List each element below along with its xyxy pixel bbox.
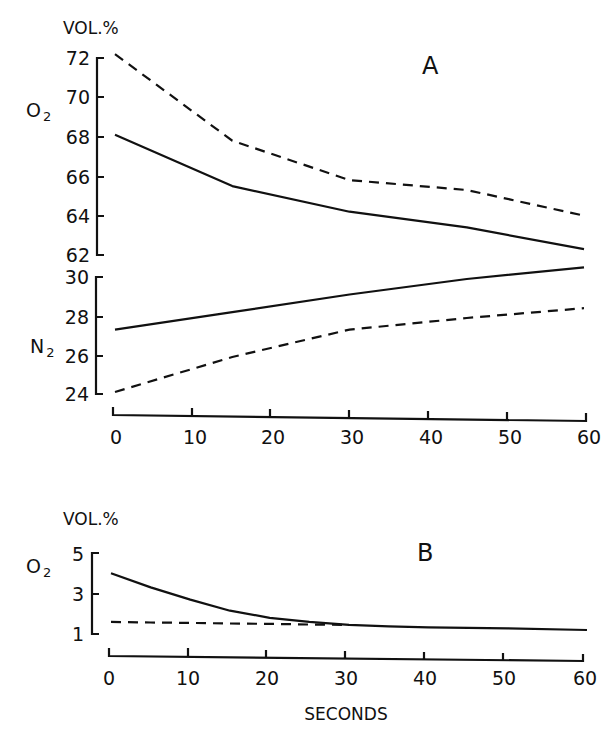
x-tick-label: 40 <box>413 667 437 689</box>
panel-a-n2-dashed-line <box>115 308 584 392</box>
panel-b-o2-y-axis: 5 3 1 <box>72 543 99 645</box>
panel-a-n2-label: N2 <box>30 335 55 360</box>
panel-b-unit-label: VOL.% <box>63 509 119 529</box>
y-tick-label: 62 <box>66 244 90 266</box>
y-tick-label: 30 <box>65 266 89 288</box>
x-tick-label: 30 <box>334 667 358 689</box>
x-tick-label: 50 <box>498 426 522 448</box>
figure: VOL.% A O2 N2 72 70 68 66 64 62 30 28 26… <box>0 0 615 735</box>
panel-a-unit-label: VOL.% <box>63 18 119 38</box>
y-tick-label: 66 <box>66 166 90 188</box>
y-tick-label: 1 <box>72 623 84 645</box>
y-tick-label: 68 <box>66 126 90 148</box>
y-tick-label: 70 <box>66 86 90 108</box>
x-tick-label: 0 <box>103 667 115 689</box>
y-tick-label: 28 <box>65 306 89 328</box>
panel-b-o2-label: O2 <box>26 555 51 580</box>
x-tick-label: 10 <box>183 426 207 448</box>
x-tick-label: 10 <box>176 667 200 689</box>
y-tick-label: 72 <box>66 47 90 69</box>
panel-b-title: B <box>417 539 433 567</box>
panel-a: VOL.% A O2 N2 72 70 68 66 64 62 30 28 26… <box>26 18 601 448</box>
panel-a-o2-solid-line <box>115 135 584 249</box>
panel-a-n2-y-axis: 30 28 26 24 <box>65 266 103 405</box>
panel-a-o2-label: O2 <box>26 99 51 124</box>
panel-a-o2-dashed-line <box>115 54 584 216</box>
x-tick-label: 40 <box>419 426 443 448</box>
y-tick-label: 64 <box>66 205 90 227</box>
panel-a-o2-y-axis: 72 70 68 66 64 62 <box>66 47 104 266</box>
panel-b-o2-solid-line <box>111 573 587 630</box>
x-tick-label: 20 <box>261 426 285 448</box>
panel-a-title: A <box>422 52 439 80</box>
panel-b-x-axis: 0 10 20 30 40 50 60 SECONDS <box>103 648 597 724</box>
x-tick-label: 60 <box>573 667 597 689</box>
x-tick-label: 60 <box>577 426 601 448</box>
y-tick-label: 5 <box>72 543 84 565</box>
x-tick-label: 30 <box>340 426 364 448</box>
panel-a-x-axis: 0 10 20 30 40 50 60 <box>110 407 601 448</box>
x-axis-title: SECONDS <box>304 704 387 724</box>
y-tick-label: 3 <box>72 583 84 605</box>
panel-a-n2-solid-line <box>115 267 584 329</box>
y-tick-label: 24 <box>65 383 89 405</box>
panel-b: VOL.% B O2 5 3 1 0 10 20 30 40 50 60 SEC… <box>26 509 597 724</box>
y-tick-label: 26 <box>65 345 89 367</box>
x-tick-label: 50 <box>492 667 516 689</box>
x-tick-label: 20 <box>255 667 279 689</box>
x-tick-label: 0 <box>110 426 122 448</box>
